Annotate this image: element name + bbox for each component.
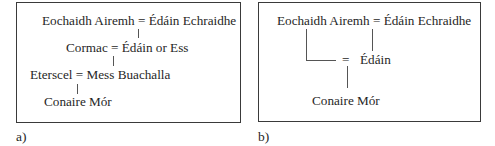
panel-b-gen2-person: Édáin	[360, 53, 391, 67]
panel-b-line-left	[306, 29, 307, 61]
panel-a-line-2	[113, 56, 114, 66]
panel-b-line-right	[372, 29, 373, 51]
panel-b-label: b)	[258, 129, 269, 145]
panel-b-line-down	[347, 66, 348, 88]
panel-b-gen3-person: Conaire Mór	[312, 94, 380, 108]
panel-a-gen3-couple: Eterscel = Mess Buachalla	[30, 68, 170, 82]
panel-a-gen2-couple: Cormac = Édáin or Ess	[66, 41, 188, 55]
panel-b-gen1-couple: Eochaidh Airemh = Édáin Echraidhe	[277, 14, 471, 28]
panel-b-line-horizontal	[306, 60, 336, 61]
panel-a-gen1-couple: Eochaidh Airemh = Édáin Echraidhe	[42, 14, 236, 28]
panel-a-gen4-person: Conaire Mór	[44, 95, 112, 109]
panel-a-line-1	[138, 29, 139, 38]
panel-a-line-3	[77, 84, 78, 94]
panel-b-gen2-equals: =	[342, 53, 349, 67]
panel-a-label: a)	[16, 129, 27, 145]
